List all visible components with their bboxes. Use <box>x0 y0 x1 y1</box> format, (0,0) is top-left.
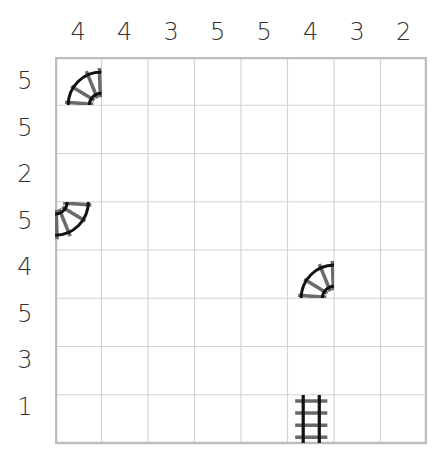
curve-track-icon[interactable] <box>55 57 102 105</box>
row-clue: 5 <box>10 67 40 95</box>
curve-track-icon[interactable] <box>55 202 102 250</box>
puzzle-grid[interactable] <box>55 57 427 429</box>
row-clue: 4 <box>10 253 40 281</box>
row-clue: 5 <box>10 207 40 235</box>
row-clue: 3 <box>10 346 40 374</box>
column-clue: 2 <box>381 18 428 46</box>
column-clue: 5 <box>241 18 288 46</box>
row-clue: 5 <box>10 300 40 328</box>
column-clue: 4 <box>288 18 335 46</box>
column-clue: 5 <box>195 18 242 46</box>
curve-track-icon[interactable] <box>288 250 335 298</box>
column-clue: 3 <box>334 18 381 46</box>
row-clue: 5 <box>10 114 40 142</box>
grid-lines <box>55 57 427 445</box>
row-clue: 2 <box>10 160 40 188</box>
column-clue: 3 <box>148 18 195 46</box>
row-clue: 1 <box>10 393 40 421</box>
column-clue: 4 <box>55 18 102 46</box>
straight-track-icon[interactable] <box>288 395 335 443</box>
column-clue: 4 <box>102 18 149 46</box>
